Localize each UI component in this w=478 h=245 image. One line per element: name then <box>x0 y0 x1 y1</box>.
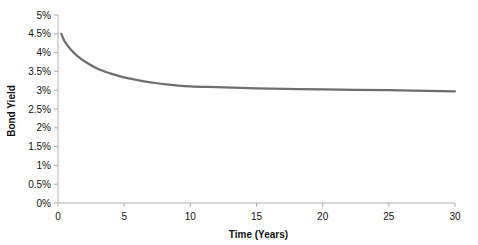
x-tick-label: 30 <box>449 211 461 222</box>
y-tick-label: 3.5% <box>28 66 51 77</box>
bond-yield-chart: 0%0.5%1%1.5%2%2.5%3%3.5%4%4.5%5% 0510152… <box>0 0 478 245</box>
y-tick-label: 2% <box>37 122 52 133</box>
x-tick-label: 10 <box>185 211 197 222</box>
x-tick-label: 15 <box>251 211 263 222</box>
bond-yield-curve <box>61 34 455 92</box>
x-tick-label: 20 <box>317 211 329 222</box>
y-tick-label: 0% <box>37 198 52 209</box>
y-axis-title: Bond Yield <box>6 85 17 137</box>
y-tick-label: 0.5% <box>28 179 51 190</box>
x-axis-ticks: 051015202530 <box>55 203 461 222</box>
y-axis-ticks: 0%0.5%1%1.5%2%2.5%3%3.5%4%4.5%5% <box>28 10 58 209</box>
y-tick-label: 1% <box>37 160 52 171</box>
y-tick-label: 3% <box>37 85 52 96</box>
x-tick-label: 0 <box>55 211 61 222</box>
y-tick-label: 4.5% <box>28 28 51 39</box>
y-tick-label: 4% <box>37 47 52 58</box>
x-axis-title: Time (Years) <box>229 229 288 240</box>
y-tick-label: 1.5% <box>28 141 51 152</box>
x-tick-label: 25 <box>383 211 395 222</box>
y-tick-label: 2.5% <box>28 104 51 115</box>
x-tick-label: 5 <box>121 211 127 222</box>
y-tick-label: 5% <box>37 10 52 21</box>
